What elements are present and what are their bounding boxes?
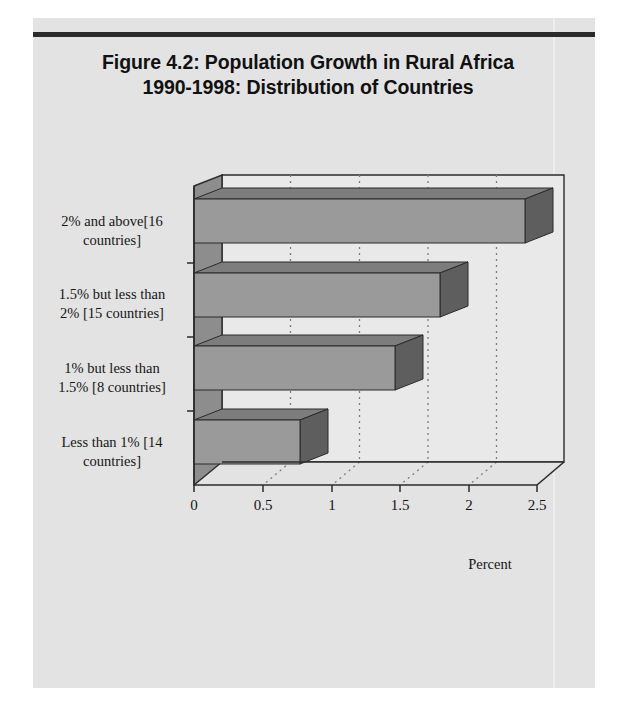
x-axis-title: Percent xyxy=(430,556,550,573)
bar-front-face xyxy=(194,273,440,317)
x-tick-label-1: 1 xyxy=(312,497,352,514)
category-label-line-2: 1.5% [8 countries] xyxy=(58,379,166,395)
category-label-line-2: countries] xyxy=(83,232,141,248)
category-label-line-1: 2% and above[16 xyxy=(61,213,162,229)
bar-front-face xyxy=(194,346,395,390)
bar-less-than-1-percent xyxy=(194,409,328,464)
category-label-line-1: Less than 1% [14 xyxy=(61,434,162,450)
x-tick-label-0: 0 xyxy=(174,497,214,514)
x-tick-label-2.5: 2.5 xyxy=(517,497,557,514)
category-label-2-percent-and-above: 2% and above[16 countries] xyxy=(36,212,188,250)
x-axis-ticks xyxy=(194,485,537,492)
category-label-less-than-1-percent: Less than 1% [14 countries] xyxy=(36,433,188,471)
plot-floor xyxy=(194,462,564,485)
x-tick-label-2: 2 xyxy=(449,497,489,514)
bar-1-to-1point5-percent xyxy=(194,335,423,390)
category-label-line-1: 1.5% but less than xyxy=(59,286,165,302)
category-label-1point5-to-2-percent: 1.5% but less than 2% [15 countries] xyxy=(36,285,188,323)
x-tick-label-0.5: 0.5 xyxy=(243,497,283,514)
bar-top-face xyxy=(194,335,423,346)
category-label-line-1: 1% but less than xyxy=(64,360,159,376)
x-tick-label-1.5: 1.5 xyxy=(380,497,420,514)
bar-top-face xyxy=(194,262,468,273)
bar-1point5-to-2-percent xyxy=(194,262,468,317)
bar-front-face xyxy=(194,420,300,464)
page-root: Figure 4.2: Population Growth in Rural A… xyxy=(0,0,620,728)
y-axis-ticks xyxy=(187,263,194,411)
bar-top-face xyxy=(194,188,553,199)
bar-front-face xyxy=(194,199,525,243)
category-label-line-2: countries] xyxy=(83,453,141,469)
category-label-1-to-1point5-percent: 1% but less than 1.5% [8 countries] xyxy=(36,359,188,397)
bar-2-percent-and-above xyxy=(194,188,553,243)
bar-chart-3d: 2% and above[16 countries] 1.5% but less… xyxy=(0,0,620,728)
category-label-line-2: 2% [15 countries] xyxy=(60,305,164,321)
